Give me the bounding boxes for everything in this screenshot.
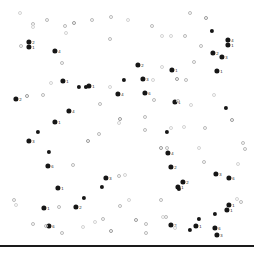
data-point-filled — [60, 78, 65, 83]
data-point-open — [123, 173, 127, 177]
data-point-filled — [165, 150, 170, 155]
data-point-open — [60, 61, 64, 65]
data-point-label: 3 — [225, 56, 227, 60]
data-point-open — [109, 229, 113, 233]
data-point-open — [18, 11, 22, 15]
data-point-filled — [214, 232, 219, 237]
data-point-label: 6 — [232, 177, 234, 181]
data-point-open — [44, 224, 48, 228]
data-point-open — [160, 65, 164, 69]
data-point-filled — [47, 150, 51, 154]
data-point-filled — [26, 138, 31, 143]
data-point-open — [165, 146, 169, 150]
data-point-open — [93, 220, 97, 224]
data-point-open — [109, 15, 113, 19]
data-point-open — [202, 160, 206, 164]
data-point-open — [159, 146, 163, 150]
data-point-filled — [188, 228, 192, 232]
data-point-open — [108, 37, 112, 41]
data-point-open — [64, 31, 68, 35]
data-point-filled — [45, 163, 50, 168]
data-point-filled — [86, 83, 91, 88]
data-point-open — [236, 162, 240, 166]
data-point-filled — [210, 50, 215, 55]
data-point-label: 2 — [216, 52, 218, 56]
data-point-open — [90, 18, 94, 22]
data-point-open — [72, 21, 76, 25]
data-point-filled — [212, 225, 217, 230]
data-point-open — [182, 125, 186, 129]
data-point-open — [212, 93, 216, 97]
data-point-filled — [177, 187, 181, 191]
data-point-open — [169, 34, 173, 38]
data-point-filled — [224, 207, 229, 212]
data-point-label: 4 — [58, 50, 60, 54]
data-point-label: 1 — [231, 44, 233, 48]
data-point-filled — [52, 119, 57, 124]
data-point-open — [239, 200, 243, 204]
data-point-filled — [13, 96, 18, 101]
data-point-filled — [226, 175, 231, 180]
data-point-open — [126, 18, 130, 22]
data-point-open — [118, 204, 122, 208]
data-point-open — [143, 128, 147, 132]
data-point-label: 2 — [19, 98, 21, 102]
data-point-open — [31, 222, 35, 226]
data-point-filled — [210, 29, 214, 33]
data-point-filled — [140, 76, 145, 81]
data-point-open — [12, 198, 16, 202]
data-point-open — [204, 16, 208, 20]
data-point-open — [188, 11, 192, 15]
data-point-open — [49, 81, 53, 85]
data-point-open — [127, 198, 131, 202]
data-point-filled — [100, 185, 104, 189]
data-point-label: 1 — [66, 80, 68, 84]
data-point-label: 3 — [219, 173, 221, 177]
data-point-filled — [122, 78, 126, 82]
data-point-label: 3 — [32, 140, 34, 144]
data-point-filled — [77, 85, 81, 89]
data-point-open — [152, 98, 156, 102]
data-point-label: 6 — [148, 92, 150, 96]
data-point-open — [160, 34, 164, 38]
data-point-filled — [193, 223, 198, 228]
data-point-open — [164, 215, 168, 219]
data-point-filled — [82, 196, 86, 200]
data-point-label: 2 — [141, 64, 143, 68]
data-point-label: 1 — [181, 186, 183, 190]
data-point-open — [25, 94, 29, 98]
data-point-open — [41, 93, 45, 97]
data-point-label: 2 — [186, 181, 188, 185]
data-point-label: 1 — [92, 85, 94, 89]
data-point-open — [19, 44, 23, 48]
data-point-label: 3 — [146, 78, 148, 82]
data-point-open — [176, 99, 180, 103]
data-point-open — [175, 77, 179, 81]
data-point-label: 1 — [220, 70, 222, 74]
data-point-open — [108, 85, 112, 89]
data-point-open — [230, 118, 234, 122]
data-point-open — [117, 121, 121, 125]
data-point-open — [144, 231, 148, 235]
data-point-open — [71, 163, 75, 167]
data-point-filled — [214, 68, 219, 73]
data-point-filled — [213, 212, 217, 216]
data-point-label: 4 — [72, 110, 74, 114]
data-point-label: 4 — [171, 152, 173, 156]
data-point-open — [197, 146, 201, 150]
data-point-filled — [165, 130, 169, 134]
data-point-label: 1 — [61, 187, 63, 191]
data-point-open — [199, 44, 203, 48]
data-point-open — [101, 217, 105, 221]
data-point-filled — [135, 62, 140, 67]
data-point-filled — [66, 108, 71, 113]
data-point-filled — [213, 171, 218, 176]
data-point-label: 1 — [230, 209, 232, 213]
data-point-open — [117, 174, 121, 178]
data-point-filled — [225, 42, 230, 47]
data-point-label: 6 — [218, 227, 220, 231]
data-point-open — [98, 102, 102, 106]
data-point-open — [97, 132, 101, 136]
data-point-open — [144, 222, 148, 226]
data-point-filled — [55, 185, 60, 190]
